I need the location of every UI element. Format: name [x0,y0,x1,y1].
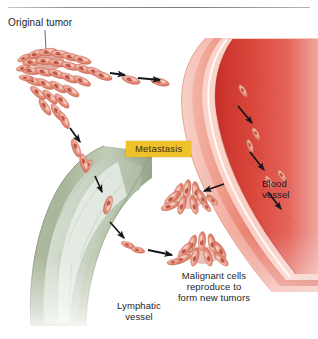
original-tumor [16,30,106,122]
shed-cells-to-lymph [56,110,90,173]
label-lymphatic-vessel: Lymphatic vessel [96,300,182,322]
lymph-to-new-tumor-arrow [148,250,172,255]
metastasis-figure: Original tumor Metastasis Blood vessel M… [0,0,318,339]
label-blood-vessel: Blood vessel [262,178,290,200]
label-malignant-cells-caption: Malignant cells reproduce to form new tu… [158,270,270,303]
shed-cells-to-blood [93,70,170,88]
metastasis-callout-box: Metastasis [126,141,191,157]
label-original-tumor: Original tumor [8,17,72,28]
